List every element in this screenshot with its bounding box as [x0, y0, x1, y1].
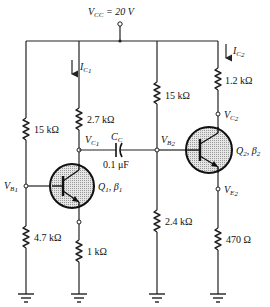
- resistor-rb2-stage1: [23, 226, 29, 248]
- node-vb2: [155, 148, 159, 152]
- ve2-label: VE2: [224, 184, 238, 198]
- rb1-stage2-label: 15 kΩ: [165, 90, 190, 101]
- transistor-q2: [186, 127, 232, 173]
- resistor-rb2-stage2: [154, 210, 160, 232]
- rc-stage1-label: 2.7 kΩ: [87, 114, 114, 125]
- ic1-label: IC1: [79, 61, 92, 75]
- ground-icon: [149, 294, 165, 302]
- cc-label: CC: [111, 131, 123, 144]
- vcc-label: VCC = 20 V: [88, 6, 136, 19]
- resistor-rb1-stage1: [23, 118, 29, 140]
- two-stage-amplifier-schematic: VCC = 20 V 15 kΩ 4.7 kΩ VB1 IC1 2.7 kΩ V…: [0, 0, 270, 307]
- ground-icon: [18, 294, 34, 302]
- ic2-label: IC2: [232, 45, 245, 59]
- vcc-terminal: [118, 22, 122, 26]
- node-ve1: [77, 220, 81, 224]
- resistor-rc-stage1: [76, 108, 82, 130]
- vb1-label: VB1: [4, 180, 18, 194]
- rc-stage2-label: 1.2 kΩ: [225, 75, 252, 86]
- svg-text:VCC = 20 V: VCC = 20 V: [88, 6, 136, 19]
- q2-label: Q2, β2: [236, 145, 261, 158]
- vb2-label: VB2: [161, 134, 175, 148]
- node-vc2: [216, 112, 220, 116]
- resistor-rb1-stage2: [154, 82, 160, 104]
- resistor-re-stage1: [76, 240, 82, 262]
- vc1-label: VC1: [85, 134, 99, 148]
- rb1-stage1-label: 15 kΩ: [34, 124, 59, 135]
- re-stage2-label: 470 Ω: [226, 234, 251, 245]
- transistor-q1: [50, 164, 94, 208]
- ground-icon: [71, 294, 87, 302]
- ground-icon: [210, 294, 226, 302]
- node-vb1: [24, 184, 28, 188]
- q1-label: Q1, β1: [98, 181, 122, 194]
- rb2-stage2-label: 2.4 kΩ: [165, 216, 192, 227]
- cc-value: 0.1 μF: [103, 159, 129, 170]
- rb2-stage1-label: 4.7 kΩ: [34, 232, 61, 243]
- resistor-rc-stage2: [215, 68, 221, 90]
- vc2-label: VC2: [224, 109, 239, 123]
- re-stage1-label: 1 kΩ: [87, 246, 107, 257]
- resistor-re-stage2: [215, 228, 221, 250]
- node-ve2: [216, 187, 220, 191]
